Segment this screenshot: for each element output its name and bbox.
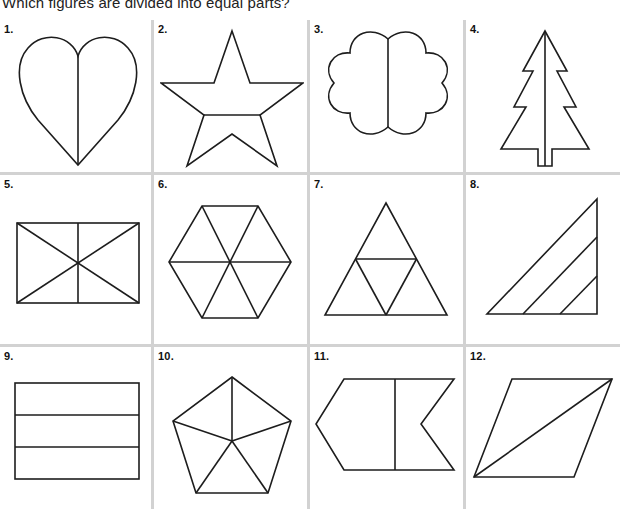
figure-cell-1[interactable]: 1. [0, 20, 151, 172]
figure-cell-4[interactable]: 4. [466, 20, 620, 172]
figure-drawing-star [160, 27, 304, 169]
figure-drawing-flower [324, 29, 452, 163]
figure-drawing-rect-diagonals [15, 221, 141, 305]
triangle-midsegment-left [356, 259, 387, 315]
pentagon-radius-4 [196, 441, 232, 493]
figure-drawing-parallelogram [471, 376, 615, 482]
right-triangle-outline [487, 199, 597, 314]
figure-drawing-heart [16, 28, 140, 168]
figure-cell-12[interactable]: 12. [466, 347, 620, 509]
figure-cell-8[interactable]: 8. [466, 175, 620, 344]
figure-number-3: 3. [314, 23, 324, 35]
pentagon-radius-3 [232, 441, 268, 493]
figure-drawing-pentagon [170, 373, 294, 501]
figure-cell-6[interactable]: 6. [154, 175, 307, 344]
pentagon-radius-5 [173, 421, 232, 441]
figure-cell-2[interactable]: 2. [154, 20, 307, 172]
figure-drawing-rect-3bands [13, 381, 141, 483]
figure-drawing-triangle-4parts [321, 199, 451, 323]
right-triangle-parallel-cut-1 [523, 237, 597, 314]
worksheet-page: Which figures are divided into equal par… [0, 0, 620, 509]
figure-cell-3[interactable]: 3. [310, 20, 463, 172]
figure-number-11: 11. [314, 350, 329, 362]
figure-number-4: 4. [470, 23, 480, 35]
figure-drawing-right-triangle [483, 196, 607, 322]
rectangle-3bands-outline [15, 383, 139, 479]
page-title: Which figures are divided into equal par… [2, 0, 290, 11]
figure-number-9: 9. [4, 350, 14, 362]
figure-number-6: 6. [158, 178, 168, 190]
figure-cell-10[interactable]: 10. [154, 347, 307, 509]
parallelogram-diagonal [474, 379, 612, 477]
figure-number-5: 5. [4, 178, 14, 190]
figure-cell-7[interactable]: 7. [310, 175, 463, 344]
figure-number-1: 1. [4, 23, 14, 35]
triangle-midsegment-right [386, 259, 417, 315]
figure-number-7: 7. [314, 178, 324, 190]
right-triangle-parallel-cut-2 [560, 276, 597, 314]
star-outline [161, 31, 303, 166]
figure-cell-11[interactable]: 11. [310, 347, 463, 509]
figure-cell-5[interactable]: 5. [0, 175, 151, 344]
figure-number-12: 12. [470, 350, 486, 362]
arrow-chevron-outline [316, 379, 454, 470]
figure-drawing-hexagon [165, 202, 295, 322]
figure-drawing-tree [495, 27, 595, 169]
figure-drawing-arrow-chevron [313, 376, 459, 476]
figure-number-8: 8. [470, 178, 480, 190]
figure-cell-9[interactable]: 9. [0, 347, 151, 509]
pentagon-radius-2 [232, 421, 291, 441]
figure-number-10: 10. [158, 350, 174, 362]
